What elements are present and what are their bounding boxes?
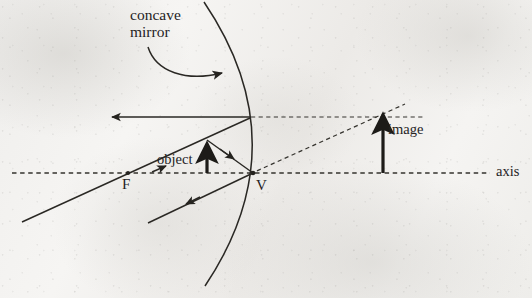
concave-mirror-label-line2: mirror (130, 24, 181, 41)
ray-diagram-figure: concave mirror object image axis F V (0, 0, 532, 298)
concave-mirror-label-line1: concave (130, 7, 181, 24)
reflected-ray-from-vertex (148, 173, 253, 223)
incident-ray-to-vertex-arrowhead (220, 149, 234, 159)
concave-mirror-arc (204, 2, 252, 286)
object-label: object (157, 152, 192, 168)
concave-mirror-label: concave mirror (130, 7, 181, 40)
vertex-dot (251, 171, 256, 176)
focal-point-label: F (122, 176, 130, 192)
vertex-label: V (256, 177, 267, 193)
reflected-ray-from-vertex-arrowhead (186, 197, 200, 204)
focal-point-dot (126, 171, 130, 175)
incident-ray-through-focus (22, 118, 250, 222)
concave-mirror-pointer-arrow (148, 47, 222, 76)
image-label: image (388, 122, 423, 138)
axis-label: axis (496, 164, 519, 180)
diagram-canvas (0, 0, 532, 298)
